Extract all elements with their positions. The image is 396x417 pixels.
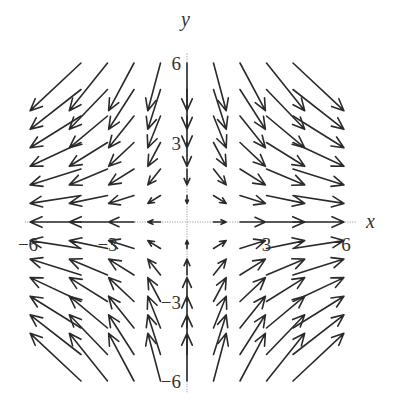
vector-arrow [30, 63, 81, 111]
x-tick-label: −6 [18, 234, 38, 255]
vector-arrow [69, 217, 107, 228]
vector-arrow [240, 116, 265, 148]
vector-arrow [214, 259, 227, 275]
vector-arrow [214, 196, 227, 204]
vector-arrow [182, 63, 193, 111]
x-tick-label: 6 [341, 234, 351, 255]
vector-arrow [30, 116, 81, 148]
x-tick-label: 3 [262, 234, 272, 255]
vector-arrow [240, 296, 265, 328]
vector-arrow [267, 63, 305, 111]
vector-arrow [214, 169, 227, 185]
vector-arrow [240, 217, 265, 226]
vector-arrow [240, 259, 265, 275]
vector-arrow [214, 241, 227, 249]
vector-arrow [147, 296, 160, 328]
y-tick-label: −3 [161, 292, 181, 313]
vector-arrow [293, 333, 344, 381]
vector-arrow [146, 333, 161, 381]
vector-arrow [293, 296, 344, 328]
vector-arrow [267, 116, 305, 148]
vector-arrow [109, 333, 134, 381]
x-axis-label: x [365, 210, 375, 232]
vector-arrow [293, 217, 344, 228]
vector-arrow [214, 220, 227, 225]
vector-arrow [146, 63, 161, 111]
vector-arrow [69, 315, 107, 355]
x-tick-label: −3 [97, 234, 117, 255]
vector-arrow [69, 63, 107, 111]
vector-arrow [148, 259, 161, 275]
vector-arrow [109, 90, 134, 130]
vector-arrow [214, 333, 229, 381]
vector-arrow [69, 90, 107, 130]
vector-arrow [240, 63, 265, 111]
y-tick-label: 6 [172, 53, 182, 74]
vector-arrow [148, 169, 161, 185]
vector-arrow [148, 241, 161, 249]
vector-field-plot: −6−33663−3−6 x y [0, 0, 396, 417]
vector-arrow [109, 217, 134, 226]
vector-arrow [109, 259, 134, 275]
vector-arrow [186, 241, 189, 249]
vector-arrow [69, 296, 107, 328]
y-axis-label: y [179, 8, 190, 31]
vector-arrow [240, 196, 265, 205]
y-tick-label: −6 [161, 371, 181, 392]
vector-arrow [184, 169, 190, 185]
vector-arrow [109, 116, 134, 148]
vector-arrow [267, 90, 305, 130]
vector-arrow [109, 169, 134, 185]
vector-arrow [109, 196, 134, 205]
vector-arrow [293, 63, 344, 111]
vector-arrow [214, 296, 227, 328]
vector-arrow [293, 116, 344, 148]
y-tick-label: 3 [172, 133, 182, 154]
vector-arrow [183, 278, 192, 302]
vector-arrow [109, 296, 134, 328]
vector-arrow [30, 296, 81, 328]
vector-arrow [30, 333, 81, 381]
vector-arrow [240, 90, 265, 130]
vector-arrow [147, 116, 160, 148]
vector-arrow [69, 116, 107, 148]
vector-arrow [267, 296, 305, 328]
vector-arrow [109, 63, 134, 111]
vector-arrow [69, 333, 107, 381]
vector-arrow [240, 315, 265, 355]
vector-arrow [109, 315, 134, 355]
vector-arrow [267, 333, 305, 381]
vector-arrow [267, 315, 305, 355]
vector-arrow [184, 259, 190, 275]
vector-arrow [240, 169, 265, 185]
vector-arrow [186, 196, 189, 204]
vector-arrow [214, 116, 227, 148]
vector-arrow [148, 220, 161, 225]
vector-arrow [214, 63, 229, 111]
vector-arrow [240, 333, 265, 381]
vector-arrow [148, 196, 161, 204]
